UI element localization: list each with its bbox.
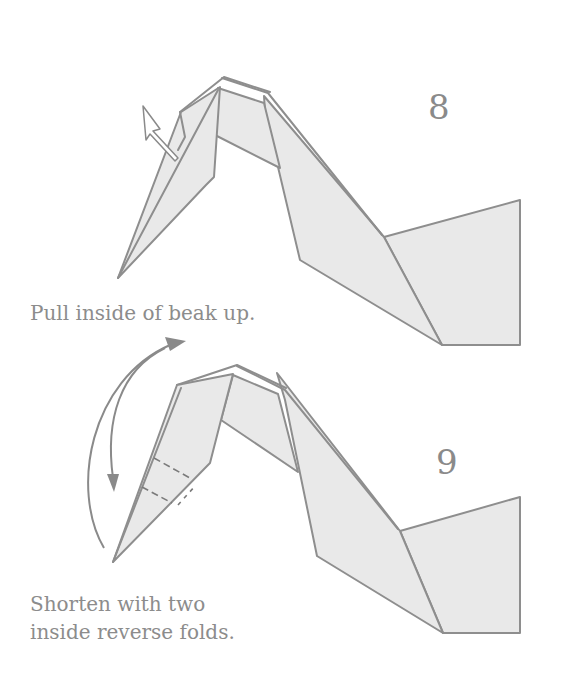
step-9-caption-line-2: inside reverse folds.	[30, 619, 235, 645]
step-9-caption-line-1: Shorten with two	[30, 591, 205, 617]
step-9-diagram	[0, 0, 565, 691]
origami-diagram-page: 8 Pull inside of beak up. 9 Shorten with…	[0, 0, 565, 691]
step-9-beak	[113, 374, 233, 562]
step-9-number: 9	[436, 445, 458, 479]
